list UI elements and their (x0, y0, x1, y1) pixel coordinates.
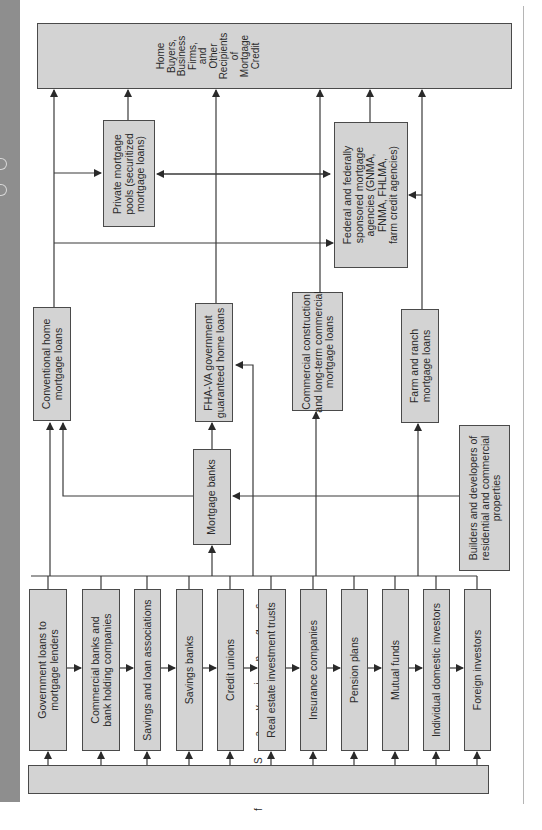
lender-label: Commercial banks and bank holding compan… (90, 613, 113, 726)
mortgage-banks-box: Mortgage banks (193, 449, 231, 545)
builders-label: Builders and developers of residential a… (467, 436, 502, 561)
farm-ranch-loans-box: Farm and ranch mortgage loans (401, 309, 439, 423)
lender-mutual-funds: Mutual funds (382, 589, 409, 751)
lender-label: Credit unions (225, 639, 237, 701)
lender-reit: Real estate investment trusts (258, 589, 286, 751)
farm-label: Farm and ranch mortgage loans (409, 329, 432, 403)
commercial-label: Commercial construction and long-term co… (300, 291, 335, 412)
lender-pension-plans: Pension plans (341, 589, 368, 751)
lender-label: Individual domestic investors (431, 603, 443, 737)
lender-commercial-banks: Commercial banks and bank holding compan… (82, 589, 120, 751)
flow-of-savings-box: F l o w o f S a v i n g s (28, 765, 489, 794)
lender-label: Mutual funds (390, 640, 402, 700)
lender-label: Savings and loan associations (142, 599, 154, 740)
lender-label: Savings banks (184, 636, 196, 704)
lender-credit-unions: Credit unions (217, 589, 244, 751)
private-pools-box: Private mortgage pools (securitized mort… (103, 120, 155, 227)
federal-agencies-box: Federal and federally sponsored mortgage… (334, 122, 408, 268)
lender-government-loans: Government loans to mortgage lenders (29, 589, 67, 751)
lender-label: Government loans to mortgage lenders (37, 621, 60, 718)
recipients-box: Home Buyers, Business Firms, and Other R… (37, 23, 512, 89)
lender-label: Pension plans (349, 637, 361, 703)
federal-label: Federal and federally sponsored mortgage… (342, 146, 400, 245)
private-pools-label: Private mortgage pools (securitized mort… (112, 133, 147, 215)
lender-label: Foreign investors (472, 630, 484, 711)
conventional-loans-box: Conventional home mortgage loans (33, 307, 71, 421)
lender-foreign-investors: Foreign investors (464, 589, 491, 751)
fha-va-loans-box: FHA-VA government guaranteed home loans (195, 303, 233, 422)
mortgage-banks-label: Mortgage banks (206, 459, 218, 534)
lender-insurance: Insurance companies (300, 589, 327, 751)
builders-developers-box: Builders and developers of residential a… (459, 425, 510, 571)
fha-va-label: FHA-VA government guaranteed home loans (203, 307, 226, 417)
lender-savings-banks: Savings banks (176, 589, 203, 751)
lender-savings-and-loan: Savings and loan associations (134, 589, 161, 751)
lender-label: Real estate investment trusts (266, 602, 278, 737)
recipients-label: Home Buyers, Business Firms, and Other R… (156, 33, 261, 80)
lender-individual-investors: Individual domestic investors (423, 589, 450, 751)
conventional-label: Conventional home mortgage loans (41, 319, 64, 409)
commercial-loans-box: Commercial construction and long-term co… (292, 292, 343, 411)
lender-label: Insurance companies (308, 620, 320, 720)
